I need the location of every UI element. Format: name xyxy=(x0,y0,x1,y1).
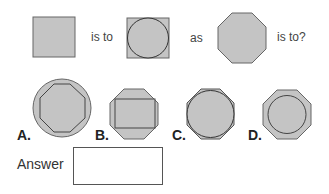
option-b-label[interactable]: B. xyxy=(95,127,109,143)
answer-input-box[interactable] xyxy=(73,147,163,185)
connector-is-to-question: is to? xyxy=(277,30,306,44)
option-a-label[interactable]: A. xyxy=(17,127,31,143)
question-square xyxy=(33,17,75,57)
option-a-figure xyxy=(33,79,91,137)
answer-label: Answer xyxy=(17,156,64,172)
connector-as: as xyxy=(190,31,203,45)
connector-is-to: is to xyxy=(91,30,113,44)
option-c-label[interactable]: C. xyxy=(172,127,186,143)
option-c-figure xyxy=(187,89,234,139)
question-octagon xyxy=(218,13,266,63)
option-d-label[interactable]: D. xyxy=(248,127,262,143)
option-d-figure xyxy=(263,90,311,139)
option-b-figure xyxy=(110,89,158,139)
question-square-with-circle xyxy=(127,18,169,58)
